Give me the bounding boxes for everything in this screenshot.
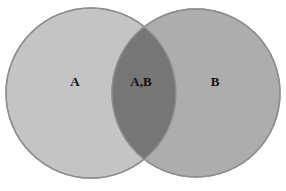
- venn-label-ab: A,B: [130, 74, 152, 89]
- venn-diagram-canvas: A A,B B: [0, 0, 286, 191]
- venn-label-b: B: [211, 74, 220, 89]
- venn-diagram-figure: A A,B B: [0, 0, 286, 191]
- venn-label-a: A: [70, 74, 80, 89]
